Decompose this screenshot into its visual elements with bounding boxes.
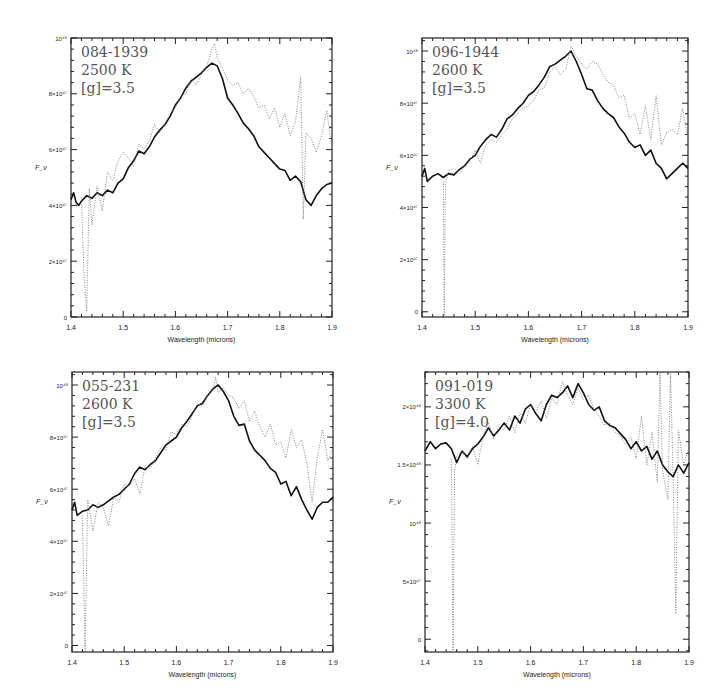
y-tick-label: 2×10⁴⁷ [400,257,418,263]
panel-bottom-right: 1.41.51.61.71.81.9Wavelength (microns)05… [364,350,727,700]
x-axis-label: Wavelength (microns) [523,671,591,679]
panel-bottom-left: 1.41.51.61.71.81.9Wavelength (microns)02… [0,350,364,700]
x-tick-label: 1.6 [526,659,536,666]
panel-annotation: 2600 K [432,62,483,78]
x-tick-label: 1.7 [577,324,587,331]
x-tick-label: 1.6 [524,324,534,331]
panel-annotation: 2600 K [82,396,133,412]
chart-091-019: 1.41.51.61.71.81.9Wavelength (microns)05… [364,350,727,700]
y-tick-label: 10⁴⁸ [406,49,418,55]
x-tick-label: 1.9 [683,324,693,331]
y-tick-label: 6×10⁴⁷ [400,153,418,159]
x-tick-label: 1.8 [276,659,286,666]
panel-annotation: [g]=4.0 [435,414,489,430]
x-tick-label: 1.8 [631,659,641,666]
x-tick-label: 1.4 [417,324,427,331]
y-tick-label: 8×10⁴⁷ [50,435,68,441]
x-tick-label: 1.5 [118,324,128,331]
chart-096-1944: 1.41.51.61.71.81.9Wavelength (microns)02… [364,0,727,350]
x-tick-label: 1.9 [328,659,338,666]
x-tick-label: 1.6 [171,324,181,331]
y-tick-label: 10⁴⁸ [56,383,68,389]
x-tick-label: 1.7 [224,659,234,666]
y-axis-label: F_ν [36,498,48,505]
panel-annotation: 055-231 [82,378,140,394]
x-tick-label: 1.5 [473,659,483,666]
x-tick-label: 1.4 [66,324,76,331]
y-tick-label: 1.5×10⁴⁸ [397,462,421,468]
chart-084-1939: 1.41.51.61.71.81.9Wavelength (microns)02… [0,0,364,350]
y-tick-label: 10⁴⁸ [55,36,67,42]
x-tick-label: 1.9 [327,324,337,331]
panel-annotation: [g]=3.5 [81,80,135,96]
x-tick-label: 1.6 [172,659,182,666]
x-tick-label: 1.7 [579,659,589,666]
panel-annotation: [g]=3.5 [82,414,136,430]
y-tick-label: 8×10⁴⁷ [49,91,67,97]
x-axis-label: Wavelength (microns) [169,671,237,679]
chart-055-231: 1.41.51.61.71.81.9Wavelength (microns)02… [0,350,364,700]
panel-annotation: [g]=3.5 [432,80,486,96]
y-axis-label: F_ν [389,498,401,505]
y-axis-label: F_ν [386,164,398,171]
y-tick-label: 2×10⁴⁸ [402,404,421,410]
panel-annotation: 2500 K [81,62,132,78]
x-tick-label: 1.8 [630,324,640,331]
y-tick-label: 5×10⁴⁷ [403,579,421,585]
x-axis-label: Wavelength (microns) [521,336,589,344]
panel-annotation: 084-1939 [81,44,148,60]
x-tick-label: 1.4 [67,659,77,666]
panel-top-left: 1.41.51.61.71.81.9Wavelength (microns)02… [0,0,364,350]
x-tick-label: 1.5 [119,659,129,666]
panel-top-right: 1.41.51.61.71.81.9Wavelength (microns)02… [364,0,727,350]
y-tick-label: 4×10⁴⁷ [49,203,67,209]
y-tick-label: 4×10⁴⁷ [50,539,68,545]
y-tick-label: 6×10⁴⁷ [49,147,67,153]
x-tick-label: 1.5 [470,324,480,331]
y-tick-label: 2×10⁴⁷ [50,591,68,597]
y-axis-label: F_ν [35,164,47,171]
y-tick-label: 2×10⁴⁷ [49,259,67,265]
y-tick-label: 4×10⁴⁷ [400,205,418,211]
x-axis-label: Wavelength (microns) [168,336,236,344]
x-tick-label: 1.8 [275,324,285,331]
y-tick-label: 0 [415,309,419,315]
y-tick-label: 8×10⁴⁷ [400,101,418,107]
y-tick-label: 6×10⁴⁷ [50,487,68,493]
panel-annotation: 091-019 [435,378,493,394]
y-tick-label: 0 [65,643,69,649]
y-tick-label: 0 [64,315,68,321]
panel-annotation: 3300 K [435,396,486,412]
x-tick-label: 1.9 [684,659,694,666]
x-tick-label: 1.4 [420,659,430,666]
panel-annotation: 096-1944 [432,44,499,60]
y-tick-label: 0 [418,637,422,643]
y-tick-label: 10⁴⁸ [409,521,421,527]
x-tick-label: 1.7 [223,324,233,331]
